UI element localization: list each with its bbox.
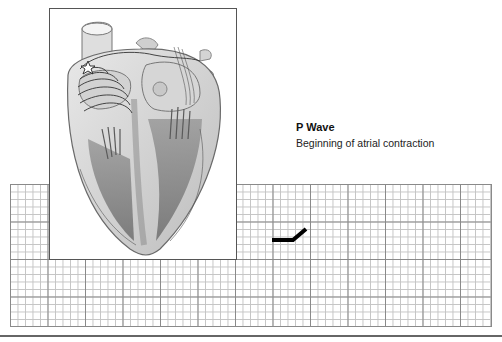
wave-description: Beginning of atrial contraction bbox=[296, 136, 434, 151]
wave-title: P Wave bbox=[296, 120, 434, 134]
bottom-divider bbox=[0, 335, 502, 337]
heart-illustration bbox=[49, 8, 237, 260]
heart-cross-section-icon bbox=[50, 9, 237, 260]
wave-info: P Wave Beginning of atrial contraction bbox=[296, 120, 434, 151]
